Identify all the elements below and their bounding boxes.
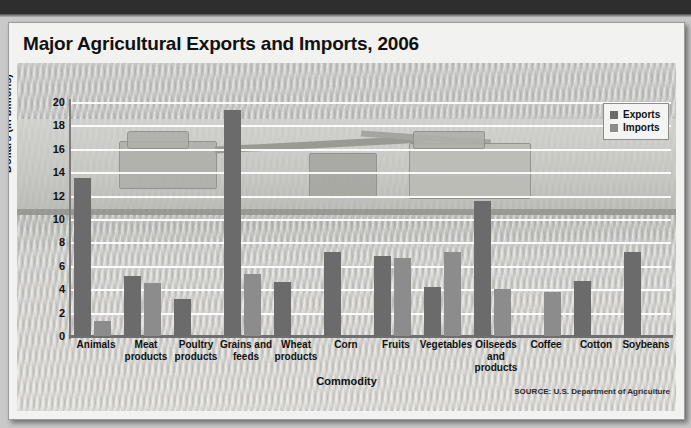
legend-swatch-imports <box>610 124 618 132</box>
bar-exports <box>174 299 191 336</box>
bar-exports <box>374 256 391 336</box>
bar-group <box>221 102 271 336</box>
page: Major Agricultural Exports and Imports, … <box>0 0 691 428</box>
y-axis-tick-label: 16 <box>37 144 65 155</box>
legend-item-exports: Exports <box>610 108 660 121</box>
bar-exports <box>424 287 441 336</box>
bar-group <box>121 102 171 336</box>
bar-imports <box>144 283 161 336</box>
bar-imports <box>444 252 461 336</box>
y-axis-title: Dollars (in billions) <box>8 74 13 173</box>
bar-group <box>421 102 471 336</box>
y-axis-tick-label: 12 <box>37 191 65 202</box>
x-axis-title: Commodity <box>9 375 684 387</box>
bar-group <box>321 102 371 336</box>
scan-top-band-edge <box>0 14 691 18</box>
y-axis-tick-label: 6 <box>37 261 65 272</box>
bar-exports <box>624 252 641 336</box>
bar-group <box>521 102 571 336</box>
x-axis-label: Soybeans <box>615 339 677 351</box>
bar-imports <box>244 274 261 336</box>
bar-group <box>371 102 421 336</box>
source-note: SOURCE: U.S. Department of Agriculture <box>514 387 670 396</box>
y-axis-tick-label: 4 <box>37 284 65 295</box>
chart-card: Major Agricultural Exports and Imports, … <box>8 22 685 420</box>
bar-group <box>471 102 521 336</box>
chart-title: Major Agricultural Exports and Imports, … <box>23 33 419 55</box>
y-axis-tick-label: 8 <box>37 237 65 248</box>
bar-exports <box>124 276 141 336</box>
bar-exports <box>324 252 341 336</box>
bar-exports <box>274 282 291 336</box>
y-axis-tick-label: 2 <box>37 308 65 319</box>
y-axis-tick-label: 10 <box>37 214 65 225</box>
bar-group <box>71 102 121 336</box>
bar-imports <box>94 321 111 336</box>
bar-imports <box>494 289 511 336</box>
bar-group <box>271 102 321 336</box>
y-axis-tick-label: 0 <box>37 331 65 342</box>
x-axis-category-labels: AnimalsMeat productsPoultry productsGrai… <box>71 339 671 379</box>
legend-label-exports: Exports <box>623 109 660 120</box>
y-axis-ticks: 20181614121086420 <box>31 102 65 336</box>
bar-imports <box>394 258 411 336</box>
bar-exports <box>224 110 241 336</box>
bar-group <box>171 102 221 336</box>
legend-label-imports: Imports <box>623 122 660 133</box>
y-axis-tick-label: 14 <box>37 167 65 178</box>
bar-exports <box>574 281 591 336</box>
y-axis-tick-label: 20 <box>37 97 65 108</box>
bar-exports <box>74 178 91 336</box>
legend-swatch-exports <box>610 111 618 119</box>
chart-legend: Exports Imports <box>603 103 669 140</box>
legend-item-imports: Imports <box>610 121 660 134</box>
bar-groups <box>71 102 671 336</box>
y-axis-tick-label: 18 <box>37 120 65 131</box>
bar-imports <box>544 292 561 336</box>
scan-top-band <box>0 0 691 14</box>
bar-exports <box>474 201 491 336</box>
